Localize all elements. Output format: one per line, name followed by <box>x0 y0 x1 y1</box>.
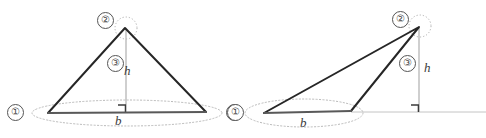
base-label-right: b <box>300 116 307 129</box>
marker-three-right: ③ <box>399 55 416 72</box>
right-angle-mark-left <box>118 105 125 112</box>
base-segment-left <box>48 112 206 113</box>
obtuse-triangle-group <box>245 15 486 127</box>
right-angle-mark-right <box>411 105 418 112</box>
marker-two-left: ② <box>97 12 114 29</box>
marker-one-left-outer: ① <box>7 104 24 121</box>
marker-one-right-diagram: ① <box>227 104 244 121</box>
height-label-right: h <box>424 61 431 74</box>
height-label-left: h <box>124 64 131 77</box>
base-label-left: b <box>115 114 122 127</box>
geometry-figure: ① ① ② ③ b h ① ② ③ b h <box>0 0 486 138</box>
base-segment-right <box>264 111 351 113</box>
marker-three-left: ③ <box>107 55 124 72</box>
triangle-sides-right <box>264 27 419 113</box>
marker-two-right: ② <box>392 11 409 28</box>
